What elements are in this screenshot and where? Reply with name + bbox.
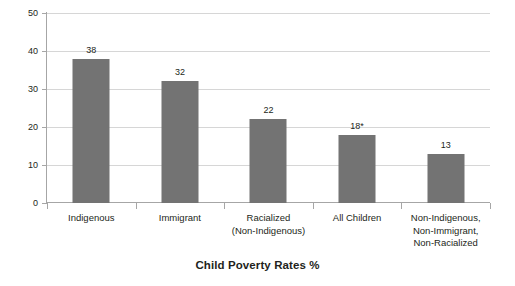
x-axis-tick (313, 203, 314, 209)
x-axis-label-non-indigenous-non-immigrant-non-racialized: Non-Indigenous, Non-Immigrant, Non-Racia… (398, 212, 493, 250)
bar-value-label: 38 (86, 46, 96, 55)
x-axis-label-line: Non-Racialized (398, 237, 493, 250)
bar-slot-all-children: 18* (313, 13, 402, 203)
x-axis-tick (224, 203, 225, 209)
y-tick-label: 30 (4, 85, 38, 94)
x-axis-label-all-children: All Children (313, 212, 402, 225)
x-axis-label-line: Immigrant (136, 212, 225, 225)
x-axis-label-line: Indigenous (47, 212, 136, 225)
y-tick-label: 20 (4, 123, 38, 132)
y-tick-label: 0 (4, 199, 38, 208)
bar-value-label: 32 (175, 68, 185, 77)
y-tick-label: 10 (4, 161, 38, 170)
bar-slot-non-indigenous-non-immigrant-non-racialized: 13 (401, 13, 490, 203)
bar-slot-immigrant: 32 (136, 13, 225, 203)
bar-all-children (339, 135, 376, 203)
x-axis-label-immigrant: Immigrant (136, 212, 225, 225)
bar-chart-figure: 50 40 30 20 10 0 38 32 22 18* 13 (0, 0, 515, 286)
bar-value-label: 13 (441, 141, 451, 150)
x-axis-label-line: All Children (313, 212, 402, 225)
bar-value-label: 22 (263, 106, 273, 115)
bar-slot-indigenous: 38 (47, 13, 136, 203)
x-axis-label-line: Non-Immigrant, (398, 225, 493, 238)
bar-immigrant (161, 81, 198, 203)
x-axis-tick (401, 203, 402, 209)
y-axis-labels: 50 40 30 20 10 0 (0, 0, 38, 286)
x-axis-tick (47, 203, 48, 209)
x-axis-tick (490, 203, 491, 209)
x-axis-tick (136, 203, 137, 209)
bar-slot-racialized: 22 (224, 13, 313, 203)
y-tick-label: 40 (4, 47, 38, 56)
x-axis-label-line: (Non-Indigenous) (224, 225, 313, 238)
x-axis-label-line: Non-Indigenous, (398, 212, 493, 225)
y-tick-label: 50 (4, 9, 38, 18)
bar-indigenous (73, 59, 110, 203)
bar-racialized (250, 119, 287, 203)
x-axis-label-racialized: Racialized (Non-Indigenous) (224, 212, 313, 237)
bar-value-label: 18* (350, 122, 364, 131)
bar-non-indigenous-non-immigrant-non-racialized (427, 154, 464, 203)
x-axis-label-line: Racialized (224, 212, 313, 225)
chart-title: Child Poverty Rates % (0, 259, 515, 271)
x-axis-label-indigenous: Indigenous (47, 212, 136, 225)
